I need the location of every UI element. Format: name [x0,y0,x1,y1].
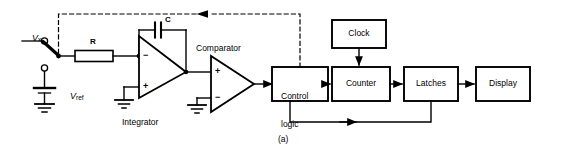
figure-caption: (a) [278,135,288,144]
figure-root: Vx Vref R C Integrator Comparator − + + … [0,0,565,158]
block-label-counter: Counter [332,79,390,88]
integrator-label: Integrator [122,118,158,127]
capacitor-label: C [165,16,171,25]
integrator-plus-sign: + [143,81,148,91]
comparator-opamp [188,56,254,113]
control-logic-line2: logic [281,120,308,129]
vref-label: Vref [60,82,84,112]
vref-branch [34,65,55,112]
comparator-minus-sign: − [215,92,220,102]
resistor-R [75,51,141,62]
block-label-display: Display [476,79,530,88]
integrator-minus-sign: − [143,50,148,60]
wire-control-to-latches [290,101,431,122]
block-label-clock: Clock [332,29,386,38]
resistor-label: R [90,38,96,47]
integrator-opamp [115,36,188,108]
control-logic-line1: Control [281,92,308,101]
vx-label: Vx [22,24,41,54]
block-label-latches: Latches [404,79,458,88]
dashed-feedback-arrowhead [197,10,209,18]
comparator-label: Comparator [196,44,241,53]
comparator-plus-sign: + [215,66,220,76]
